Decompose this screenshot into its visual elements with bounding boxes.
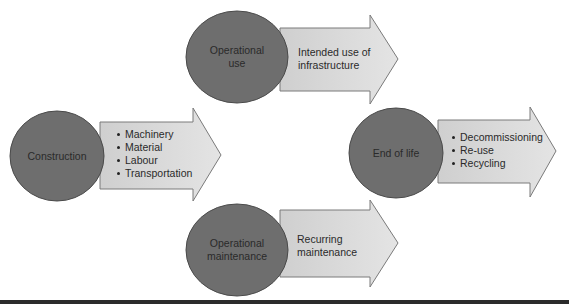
end-of-life-label: End of life [373,147,420,160]
operational-use-arrow-text: Intended use of infrastructure [298,46,370,72]
operational-use-arrow-line-1: Intended use of [298,46,370,59]
operational-use-label-line-2: use [210,57,264,70]
operational-use-arrow-line-2: infrastructure [298,59,370,72]
construction-item: Transportation [117,167,192,180]
construction-label: Construction [28,150,87,163]
end-of-life-item: Decommissioning [452,131,543,144]
construction-item: Machinery [117,128,192,141]
end-of-life-items: Decommissioning Re-use Recycling [452,131,543,170]
operational-maintenance-arrow-line-2: maintenance [297,246,357,259]
operational-maintenance-label-line-2: maintenance [207,250,267,263]
bottom-border [0,300,569,304]
operational-use-label: Operational use [210,44,264,70]
operational-maintenance-label-line-1: Operational [207,237,267,250]
construction-items: Machinery Material Labour Transportation [117,128,192,180]
construction-item: Labour [117,154,192,167]
operational-maintenance-label: Operational maintenance [207,237,267,263]
operational-maintenance-arrow-text: Recurring maintenance [297,233,357,259]
end-of-life-item: Recycling [452,157,543,170]
operational-maintenance-arrow-line-1: Recurring [297,233,357,246]
operational-use-label-line-1: Operational [210,44,264,57]
end-of-life-item: Re-use [452,144,543,157]
construction-item: Material [117,141,192,154]
